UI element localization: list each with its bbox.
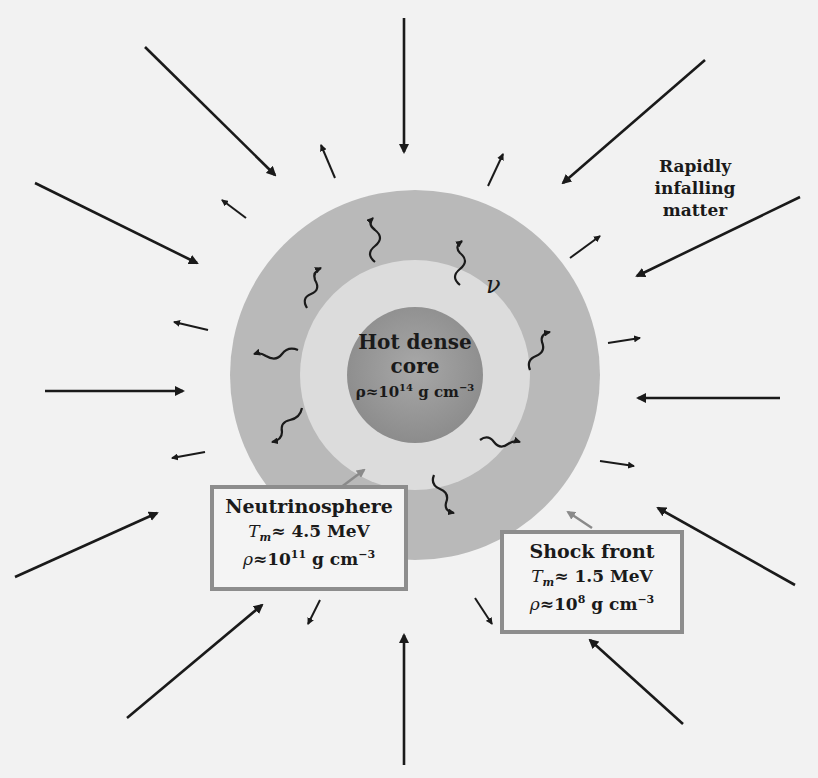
temp-value: ≈ 1.5 MeV	[554, 566, 652, 586]
temp-value: ≈ 4.5 MeV	[271, 521, 369, 541]
core-density-unit-exp: −3	[459, 382, 474, 393]
temp-subscript: m	[543, 576, 555, 589]
density-unit: g cm	[306, 549, 358, 569]
core-density-unit: g cm	[413, 383, 459, 401]
density-unit: g cm	[585, 594, 637, 614]
density-unit-exp: −3	[637, 593, 654, 606]
core-label: Hot dense core ρ≈1014 g cm−3	[345, 330, 485, 401]
density-unit-exp: −3	[358, 548, 375, 561]
density-exp: 11	[291, 548, 306, 561]
shock-front-box: Shock front Tm≈ 1.5 MeV ρ≈108 g cm−3	[500, 530, 684, 634]
shock-front-temperature: Tm≈ 1.5 MeV	[504, 566, 680, 589]
temp-symbol: T	[531, 566, 542, 586]
core-density-exp: 14	[399, 382, 413, 393]
density-value: ≈10	[540, 594, 578, 614]
neutrinosphere-title: Neutrinosphere	[214, 495, 404, 517]
shock-front-title: Shock front	[504, 540, 680, 562]
infalling-label-line2: infalling	[625, 177, 765, 199]
core-density-value: ρ≈10	[356, 383, 399, 401]
density-symbol: ρ	[243, 549, 253, 569]
infalling-label-line1: Rapidly	[625, 155, 765, 177]
core-label-line2: core	[345, 354, 485, 378]
density-symbol: ρ	[530, 594, 540, 614]
core-density: ρ≈1014 g cm−3	[345, 382, 485, 401]
shock-front-density: ρ≈108 g cm−3	[504, 593, 680, 614]
neutrinosphere-box: Neutrinosphere Tm≈ 4.5 MeV ρ≈1011 g cm−3	[210, 485, 408, 591]
infalling-matter-label: Rapidly infalling matter	[625, 155, 765, 221]
temp-subscript: m	[260, 531, 272, 544]
density-value: ≈10	[253, 549, 291, 569]
infalling-label-line3: matter	[625, 199, 765, 221]
neutrinosphere-density: ρ≈1011 g cm−3	[214, 548, 404, 569]
core-label-line1: Hot dense	[345, 330, 485, 354]
neutrino-symbol: ν	[486, 271, 501, 299]
neutrinosphere-temperature: Tm≈ 4.5 MeV	[214, 521, 404, 544]
temp-symbol: T	[248, 521, 259, 541]
